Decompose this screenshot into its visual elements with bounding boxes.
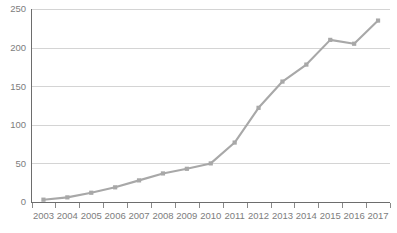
x-tick-label: 2008 [152,210,173,221]
data-point-marker [113,185,117,189]
chart-canvas: 050100150200250 200320042005200620072008… [0,0,397,233]
x-tick-label: 2009 [176,210,197,221]
x-tick-label: 2017 [367,210,388,221]
data-point-marker [256,106,260,110]
x-tick-label: 2011 [224,210,244,221]
data-point-marker [65,195,69,199]
y-tick-label: 50 [15,158,26,169]
x-tick-label: 2015 [320,210,341,221]
x-tick-label: 2003 [33,210,54,221]
data-point-marker [89,191,93,195]
x-tick-label: 2013 [272,210,293,221]
x-tick-label: 2004 [57,210,78,221]
y-tick-label: 150 [10,81,26,92]
data-point-marker [352,42,356,46]
data-point-marker [328,38,332,42]
data-point-marker [161,171,165,175]
x-axis-labels: 2003200420052006200720082009201020112012… [33,210,389,221]
y-tick-label: 200 [10,42,26,53]
y-tick-label: 0 [21,196,26,207]
x-tick-label: 2014 [296,210,317,221]
data-point-marker [209,161,213,165]
data-point-marker [280,79,284,83]
x-tick-label: 2006 [105,210,126,221]
data-point-marker [304,62,308,66]
data-point-marker [137,178,141,182]
y-tick-label: 250 [10,3,26,14]
data-point-marker [376,18,380,22]
x-tick-label: 2016 [344,210,365,221]
x-tick-label: 2012 [248,210,269,221]
data-point-marker [41,198,45,202]
data-point-marker [185,167,189,171]
x-tick-label: 2007 [128,210,149,221]
data-point-marker [233,140,237,144]
y-tick-label: 100 [10,119,26,130]
x-tick-label: 2005 [81,210,102,221]
x-tick-label: 2010 [200,210,221,221]
line-chart: 050100150200250 200320042005200620072008… [0,0,397,233]
